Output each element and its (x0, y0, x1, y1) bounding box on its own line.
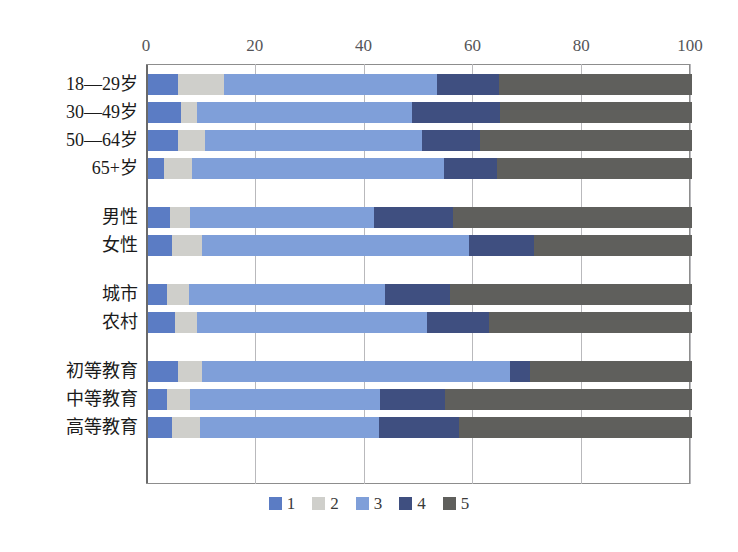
x-tick-40: 40 (344, 36, 384, 56)
bar-segment-series-5 (499, 74, 692, 95)
bar-segment-series-1 (148, 130, 178, 151)
bar-segment-series-2 (164, 158, 191, 179)
bar-segment-series-4 (380, 389, 445, 410)
bar-segment-series-1 (148, 207, 170, 228)
bar-row: 中等教育 (0, 389, 738, 410)
bar-segment-series-1 (148, 417, 172, 438)
x-tick-0: 0 (126, 36, 166, 56)
bar-segment-series-4 (379, 417, 459, 438)
category-label: 城市 (0, 284, 138, 305)
stacked-bar (148, 102, 692, 123)
bar-segment-series-3 (202, 361, 510, 382)
bar-segment-series-4 (422, 130, 480, 151)
legend-item-1[interactable]: 1 (269, 497, 296, 510)
x-tick-60: 60 (452, 36, 492, 56)
legend-label: 3 (374, 497, 383, 510)
category-label: 中等教育 (0, 389, 138, 410)
bar-segment-series-4 (374, 207, 453, 228)
legend-item-2[interactable]: 2 (312, 497, 339, 510)
bar-row: 农村 (0, 312, 738, 333)
stacked-bar (148, 417, 692, 438)
legend-label: 2 (330, 497, 339, 510)
bar-segment-series-5 (489, 312, 692, 333)
bar-segment-series-2 (178, 361, 201, 382)
stacked-bar (148, 130, 692, 151)
bar-row: 65+岁 (0, 158, 738, 179)
legend-label: 1 (287, 497, 296, 510)
x-tick-20: 20 (235, 36, 275, 56)
bar-segment-series-1 (148, 74, 178, 95)
bar-segment-series-1 (148, 389, 167, 410)
legend-swatch-icon-5 (443, 497, 456, 510)
bar-segment-series-5 (497, 158, 692, 179)
bar-segment-series-1 (148, 235, 172, 256)
category-label: 初等教育 (0, 361, 138, 382)
bar-segment-series-2 (167, 284, 189, 305)
bar-segment-series-3 (190, 389, 380, 410)
bar-segment-series-5 (450, 284, 692, 305)
bar-row: 18—29岁 (0, 74, 738, 95)
category-label: 30—49岁 (0, 102, 138, 123)
stacked-bar (148, 312, 692, 333)
bar-segment-series-3 (202, 235, 469, 256)
bar-segment-series-4 (385, 284, 450, 305)
bar-segment-series-1 (148, 361, 178, 382)
legend-item-3[interactable]: 3 (356, 497, 383, 510)
stacked-bar (148, 284, 692, 305)
stacked-bar (148, 158, 692, 179)
bar-row: 女性 (0, 235, 738, 256)
bar-segment-series-2 (172, 235, 202, 256)
category-label: 18—29岁 (0, 74, 138, 95)
bar-segment-series-1 (148, 102, 181, 123)
bar-segment-series-3 (189, 284, 385, 305)
category-label: 65+岁 (0, 158, 138, 179)
bar-segment-series-2 (178, 130, 205, 151)
bar-segment-series-5 (459, 417, 692, 438)
bar-segment-series-1 (148, 312, 175, 333)
stacked-bar (148, 235, 692, 256)
stacked-bar-chart: 020406080100 18—29岁30—49岁50—64岁65+岁男性女性城… (0, 0, 738, 552)
x-tick-100: 100 (670, 36, 710, 56)
legend-label: 4 (417, 497, 426, 510)
bar-segment-series-2 (170, 207, 191, 228)
bar-segment-series-5 (480, 130, 692, 151)
stacked-bar (148, 207, 692, 228)
bar-segment-series-2 (167, 389, 190, 410)
bar-segment-series-5 (453, 207, 692, 228)
bar-row: 50—64岁 (0, 130, 738, 151)
bar-segment-series-4 (427, 312, 488, 333)
bar-segment-series-4 (510, 361, 530, 382)
bar-row: 高等教育 (0, 417, 738, 438)
bar-row: 初等教育 (0, 361, 738, 382)
bar-segment-series-4 (469, 235, 534, 256)
bar-segment-series-3 (192, 158, 444, 179)
bar-segment-series-3 (205, 130, 422, 151)
bar-segment-series-2 (178, 74, 224, 95)
stacked-bar (148, 389, 692, 410)
stacked-bar (148, 361, 692, 382)
bar-segment-series-2 (175, 312, 197, 333)
bar-segment-series-5 (445, 389, 692, 410)
bar-row: 男性 (0, 207, 738, 228)
bar-segment-series-1 (148, 158, 164, 179)
bar-segment-series-3 (224, 74, 437, 95)
bar-segment-series-1 (148, 284, 167, 305)
bar-segment-series-3 (200, 417, 380, 438)
bar-segment-series-3 (190, 207, 373, 228)
bar-row: 30—49岁 (0, 102, 738, 123)
category-label: 50—64岁 (0, 130, 138, 151)
legend-item-4[interactable]: 4 (399, 497, 426, 510)
bar-segment-series-4 (412, 102, 500, 123)
bar-row: 城市 (0, 284, 738, 305)
legend-swatch-icon-1 (269, 497, 282, 510)
category-label: 男性 (0, 207, 138, 228)
category-label: 农村 (0, 312, 138, 333)
legend-item-5[interactable]: 5 (443, 497, 470, 510)
legend-swatch-icon-3 (356, 497, 369, 510)
stacked-bar (148, 74, 692, 95)
category-label: 女性 (0, 235, 138, 256)
legend-label: 5 (461, 497, 470, 510)
bar-segment-series-3 (197, 312, 427, 333)
legend-swatch-icon-2 (312, 497, 325, 510)
bar-segment-series-5 (530, 361, 692, 382)
